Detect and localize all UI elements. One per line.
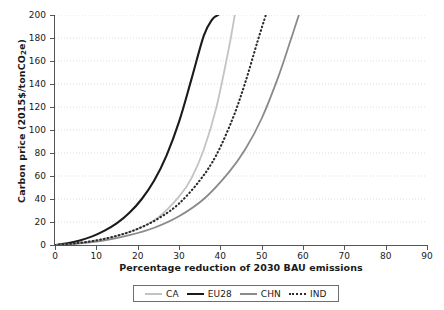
y-axis-title-subscript: 2 [20, 50, 28, 55]
y-tick-mark [50, 130, 54, 131]
legend-swatch-ca-icon [145, 289, 162, 299]
x-tick-label: 10 [81, 251, 111, 261]
x-tick-mark [303, 246, 304, 250]
x-tick-label: 60 [288, 251, 318, 261]
x-tick-mark [179, 246, 180, 250]
legend-swatch-ind-icon [289, 289, 306, 299]
legend-item-chn[interactable]: CHN [240, 289, 281, 299]
x-tick-mark [220, 246, 221, 250]
y-tick-label-wrap: 80 [16, 149, 46, 158]
chart-legend: CAEU28CHNIND [133, 285, 339, 302]
y-tick-mark [50, 176, 54, 177]
x-tick-mark [386, 246, 387, 250]
y-tick-label: 0 [20, 241, 46, 250]
y-tick-label: 120 [20, 103, 46, 112]
y-tick-label: 100 [20, 126, 46, 135]
y-tick-label-wrap: 160 [16, 57, 46, 66]
y-tick-mark [50, 153, 54, 154]
carbon-price-chart-figure: Carbon price (2015$/tonCO2e) 02040608010… [0, 0, 444, 310]
legend-swatch-eu28-icon [187, 289, 204, 299]
y-tick-label-wrap: 40 [16, 195, 46, 204]
x-axis-title: Percentage reduction of 2030 BAU emissio… [55, 262, 427, 273]
y-tick-label: 20 [20, 218, 46, 227]
x-axis-line [55, 245, 428, 246]
x-tick-mark [55, 246, 56, 250]
y-tick-label-wrap: 20 [16, 218, 46, 227]
y-tick-mark [50, 107, 54, 108]
y-tick-label: 60 [20, 172, 46, 181]
y-tick-label: 180 [20, 34, 46, 43]
y-tick-label: 160 [20, 57, 46, 66]
x-tick-label: 40 [205, 251, 235, 261]
series-line-ind [55, 15, 266, 245]
legend-label: IND [310, 289, 327, 299]
y-tick-label-wrap: 180 [16, 34, 46, 43]
y-tick-mark [50, 15, 54, 16]
y-tick-mark [50, 199, 54, 200]
y-tick-label: 140 [20, 80, 46, 89]
plot-area [55, 15, 427, 245]
y-tick-mark [50, 61, 54, 62]
y-tick-mark [50, 245, 54, 246]
x-tick-label: 30 [164, 251, 194, 261]
legend-item-ind[interactable]: IND [289, 289, 327, 299]
legend-swatch-chn-icon [240, 289, 257, 299]
legend-label: CA [166, 289, 179, 299]
legend-label: EU28 [208, 289, 232, 299]
x-tick-mark [96, 246, 97, 250]
legend-label: CHN [261, 289, 281, 299]
y-tick-label-wrap: 60 [16, 172, 46, 181]
x-tick-mark [138, 246, 139, 250]
y-tick-label: 200 [20, 11, 46, 20]
x-tick-label: 50 [247, 251, 277, 261]
y-tick-mark [50, 84, 54, 85]
x-tick-label: 90 [412, 251, 442, 261]
x-tick-label: 80 [371, 251, 401, 261]
legend-item-ca[interactable]: CA [145, 289, 179, 299]
y-tick-label: 80 [20, 149, 46, 158]
x-tick-mark [262, 246, 263, 250]
x-tick-mark [427, 246, 428, 250]
y-tick-mark [50, 38, 54, 39]
y-tick-label-wrap: 120 [16, 103, 46, 112]
x-tick-label: 20 [123, 251, 153, 261]
x-tick-label: 0 [40, 251, 70, 261]
y-tick-label-wrap: 100 [16, 126, 46, 135]
y-tick-label-wrap: 0 [16, 241, 46, 250]
series-line-eu28 [55, 15, 218, 245]
y-tick-label-wrap: 200 [16, 11, 46, 20]
series-curves [55, 15, 427, 245]
series-line-ca [55, 15, 235, 245]
x-tick-mark [344, 246, 345, 250]
y-tick-label-wrap: 140 [16, 80, 46, 89]
y-tick-mark [50, 222, 54, 223]
y-tick-label: 40 [20, 195, 46, 204]
legend-item-eu28[interactable]: EU28 [187, 289, 232, 299]
x-tick-label: 70 [329, 251, 359, 261]
